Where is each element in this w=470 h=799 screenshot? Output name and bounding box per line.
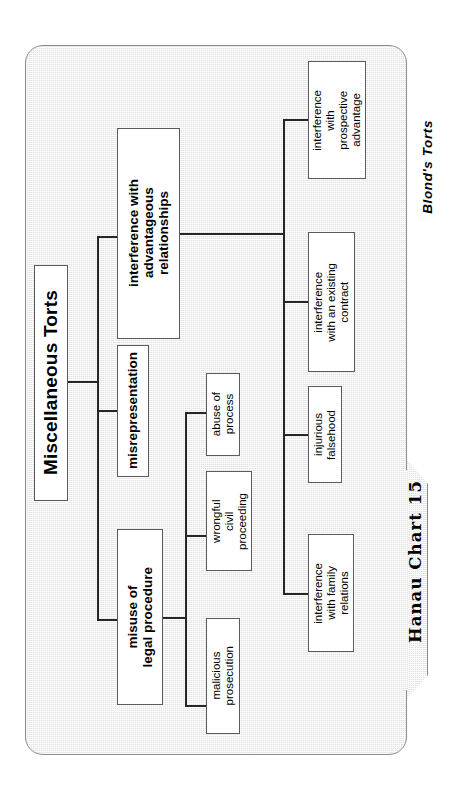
connector-to-injurious-falsehood (283, 434, 308, 436)
connector-iwar-stub (180, 233, 284, 235)
node-label: interference with advantageous relations… (126, 179, 171, 287)
chart-page: Miscellaneous Torts interference with ad… (0, 0, 470, 799)
node-label: abuse of process (210, 392, 236, 436)
node-interference-with-advantageous-relationships[interactable]: interference with advantageous relations… (117, 128, 180, 339)
connector-level2-spine (97, 236, 99, 620)
publisher-label: Blond's Torts (420, 120, 435, 214)
node-abuse-of-process[interactable]: abuse of process (206, 373, 240, 456)
node-miscellaneous-torts[interactable]: Miscellaneous Torts (34, 265, 68, 501)
connector-to-existing-contract (283, 301, 308, 303)
connector-to-misuse-legal-procedure (97, 619, 117, 621)
connector-to-wrongful-civil-proceeding (185, 535, 206, 537)
connector-misuse-stub (163, 617, 186, 619)
node-wrongful-civil-proceeding[interactable]: wrongful civil proceeding (206, 471, 252, 571)
node-interference-with-prospective-advantage[interactable]: interference with prospective advantage (308, 61, 366, 179)
connector-to-malicious-prosecution (185, 705, 206, 707)
node-label: malicious prosecution (210, 646, 236, 705)
node-misuse-of-legal-procedure[interactable]: misuse of legal procedure (117, 529, 163, 705)
chart-number-label: Hanau Chart 15 (406, 480, 425, 643)
node-injurious-falsehood[interactable]: injurious falsehood (308, 386, 342, 483)
node-label: misrepresentation (125, 352, 140, 469)
node-label: injurious falsehood (312, 410, 338, 460)
connector-to-prospective-advantage (283, 119, 308, 121)
connector-to-interference-advantageous (97, 236, 117, 238)
node-interference-with-an-existing-contract[interactable]: interference with an existing contract (308, 232, 355, 372)
node-malicious-prosecution[interactable]: malicious prosecution (206, 618, 240, 734)
node-label: interference with family relations (312, 563, 351, 624)
node-label: Miscellaneous Torts (40, 290, 61, 475)
node-label: misuse of legal procedure (125, 567, 155, 668)
node-label: wrongful civil proceeding (210, 493, 249, 550)
connector-to-abuse-of-process (185, 412, 206, 414)
node-label: interference with an existing contract (312, 263, 351, 342)
connector-to-family-relations (283, 593, 308, 595)
connector-misuse-spine (185, 412, 187, 706)
node-interference-with-family-relations[interactable]: interference with family relations (308, 534, 354, 652)
connector-to-misrepresentation (97, 410, 117, 412)
node-misrepresentation[interactable]: misrepresentation (117, 345, 149, 477)
connector-iwar-spine (283, 119, 285, 593)
node-label: interference with prospective advantage (311, 90, 363, 151)
connector-root-stub (68, 381, 98, 383)
